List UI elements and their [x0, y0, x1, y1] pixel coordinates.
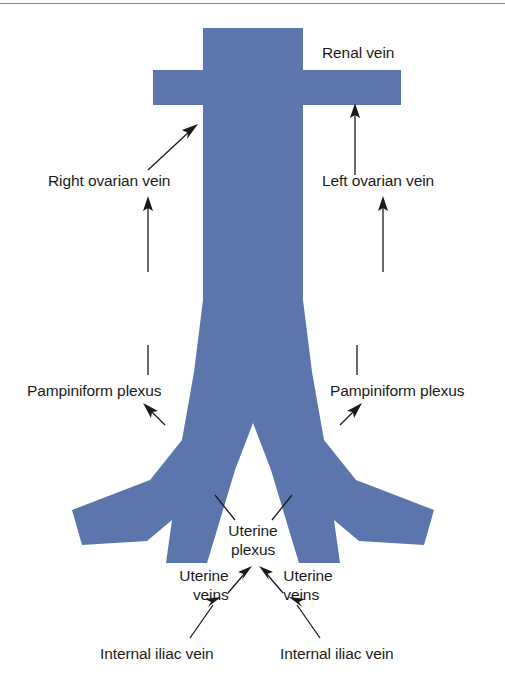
pampiniform-plexus-left-leader — [150, 410, 165, 425]
pampiniform-plexus-right-leader — [340, 410, 355, 425]
inferior-vena-cava-trunk — [194, 28, 312, 423]
uterine-veins-left-leader — [228, 573, 245, 593]
label-uterine-plexus-line1: Uterine — [228, 522, 277, 541]
label-pampiniform-plexus-left: Pampiniform plexus — [27, 382, 161, 400]
label-renal-vein: Renal vein — [322, 44, 394, 62]
left-iliac-branch — [72, 372, 253, 563]
label-uterine-veins-left-line2: veins — [179, 586, 228, 605]
uterine-veins-right-leader — [266, 573, 283, 593]
right-iliac-branch — [253, 372, 434, 563]
label-uterine-veins-right-line2: veins — [283, 586, 332, 605]
anatomy-figure: Renal vein Right ovarian vein Left ovari… — [0, 0, 505, 683]
left-renal-vein-arm — [296, 70, 401, 105]
label-uterine-plexus: Uterine plexus — [228, 522, 277, 559]
label-internal-iliac-vein-left: Internal iliac vein — [100, 645, 214, 663]
right-renal-vein-arm — [153, 70, 209, 105]
internal-iliac-vein-left-leader — [190, 605, 213, 638]
label-uterine-veins-right: Uterine veins — [283, 567, 332, 604]
label-right-ovarian-vein: Right ovarian vein — [48, 172, 170, 190]
label-pampiniform-plexus-right: Pampiniform plexus — [330, 382, 464, 400]
label-internal-iliac-vein-right: Internal iliac vein — [280, 645, 394, 663]
vessel-silhouette — [72, 28, 434, 563]
label-uterine-veins-left-line1: Uterine — [179, 567, 228, 586]
label-uterine-veins-left: Uterine veins — [179, 567, 228, 604]
internal-iliac-vein-right-leader — [297, 605, 320, 638]
label-left-ovarian-vein: Left ovarian vein — [322, 172, 434, 190]
vessel-diagram-svg — [0, 0, 505, 683]
label-uterine-plexus-line2: plexus — [228, 541, 277, 560]
label-uterine-veins-right-line1: Uterine — [283, 567, 332, 586]
right-ovarian-vein-leader — [148, 131, 190, 170]
